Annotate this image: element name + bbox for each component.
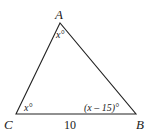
triangle-diagram: A C B x° x° (x – 15)° 10 — [0, 0, 149, 135]
angle-label-b: (x – 15)° — [84, 102, 119, 114]
triangle-abc — [16, 23, 136, 114]
side-label-cb: 10 — [64, 118, 76, 132]
vertex-label-a: A — [54, 7, 63, 22]
vertex-label-b: B — [136, 117, 144, 132]
vertex-label-c: C — [4, 117, 13, 132]
angle-label-c: x° — [23, 102, 32, 113]
angle-label-a: x° — [55, 29, 64, 40]
